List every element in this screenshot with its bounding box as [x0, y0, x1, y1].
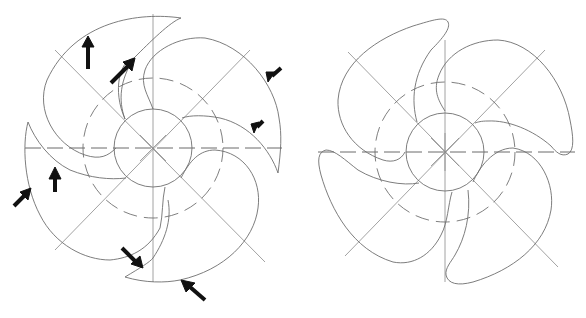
fan-figure-right	[293, 0, 586, 318]
arrow-icon	[266, 68, 281, 82]
arrow-icon	[82, 36, 94, 69]
arrow-icon	[111, 58, 135, 83]
arrows	[14, 36, 281, 300]
arrow-icon	[122, 248, 143, 268]
fan-figure-left	[0, 0, 293, 318]
arrow-icon	[49, 167, 61, 192]
fan-drawing-sharp-blades	[0, 0, 293, 318]
arrow-icon	[181, 280, 205, 300]
fan-drawing-rounded-blades	[293, 0, 586, 318]
arrow-icon	[14, 188, 31, 206]
arrow-icon	[251, 121, 263, 133]
